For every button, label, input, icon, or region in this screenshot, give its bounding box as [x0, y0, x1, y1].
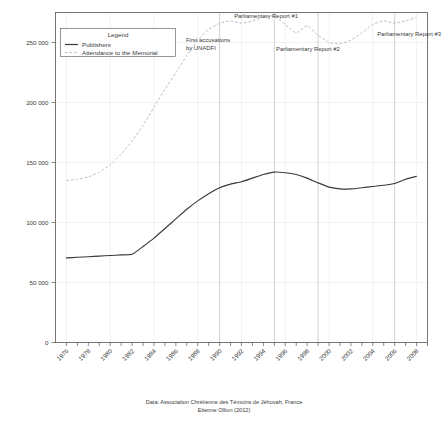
annotation-label-1-line2: by UNADFI — [186, 45, 216, 51]
y-tick-label: 250 000 — [26, 39, 49, 46]
legend-label-publishers: Publishers — [82, 41, 111, 48]
y-tick-label: 100 000 — [26, 219, 49, 226]
legend-title: Legend — [108, 31, 129, 38]
chart-background — [0, 0, 448, 426]
line-chart-canvas: 050 000100 000150 000200 000250 000 1976… — [0, 0, 448, 426]
annotation-label-4: Parliamentary Report #3 — [377, 31, 442, 37]
annotation-label-1: First accusations — [186, 37, 230, 43]
y-tick-label: 150 000 — [26, 159, 49, 166]
y-tick-label: 50 000 — [30, 279, 49, 286]
chart-legend: Legend Publishers Attendance to the Memo… — [61, 29, 176, 57]
annotation-label-2: Parliamentary Report #1 — [234, 13, 298, 19]
caption-data-source: Data: Association Chrétienne des Témoins… — [146, 399, 303, 405]
y-tick-label: 200 000 — [26, 99, 49, 106]
chart-figure: 050 000100 000150 000200 000250 000 1976… — [0, 0, 448, 426]
legend-label-attendance-to-the-memorial: Attendance to the Memorial — [82, 49, 158, 56]
caption-author: Etienne Ollion (2012) — [198, 407, 251, 413]
y-tick-label: 0 — [45, 339, 49, 346]
annotation-label-3: Parliamentary Report #2 — [276, 46, 340, 52]
